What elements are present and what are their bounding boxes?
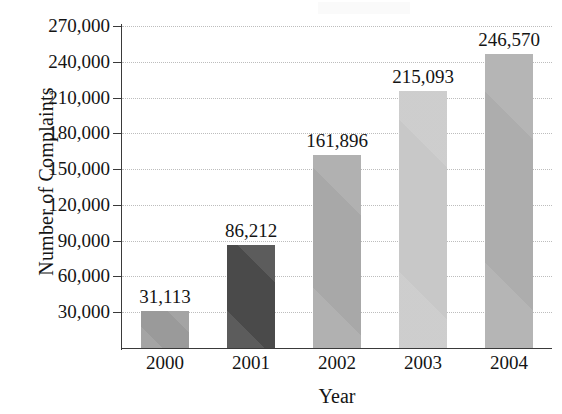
y-axis-tick-label: 150,000 [2, 159, 110, 178]
y-axis-tick-label: 270,000 [2, 16, 110, 35]
bar [485, 54, 533, 348]
bar [227, 245, 275, 348]
bar-value-label: 161,896 [277, 131, 397, 150]
y-axis-tick [113, 241, 122, 242]
bar-value-label: 246,570 [449, 30, 562, 49]
y-axis-tick [113, 276, 122, 277]
y-axis-tick [113, 205, 122, 206]
bar [313, 155, 361, 348]
y-axis-tick [113, 62, 122, 63]
bar [399, 91, 447, 348]
x-axis-title: Year [122, 385, 552, 408]
y-axis-title: Number of Complaints [35, 32, 58, 332]
gridline [122, 26, 552, 27]
bar-value-label: 31,113 [105, 287, 225, 306]
bar [141, 311, 189, 348]
y-axis-tick [113, 312, 122, 313]
y-axis-tick-label: 210,000 [2, 88, 110, 107]
bar-chart: Number of Complaints 30,00060,00090,0001… [0, 0, 562, 414]
y-axis-tick-label: 90,000 [2, 231, 110, 250]
bar-value-label: 215,093 [363, 67, 483, 86]
y-axis-tick [113, 133, 122, 134]
y-axis-tick-label: 120,000 [2, 195, 110, 214]
y-axis-tick [113, 98, 122, 99]
bar-value-label: 86,212 [191, 221, 311, 240]
y-axis-tick [113, 169, 122, 170]
x-axis-tick-label: 2004 [449, 352, 562, 374]
y-axis-tick [113, 26, 122, 27]
y-axis-tick-label: 240,000 [2, 52, 110, 71]
x-axis-line [121, 348, 552, 349]
scan-artifact [318, 2, 410, 14]
y-axis-tick-label: 30,000 [2, 302, 110, 321]
y-axis-tick-label: 60,000 [2, 266, 110, 285]
y-axis-tick-label: 180,000 [2, 123, 110, 142]
